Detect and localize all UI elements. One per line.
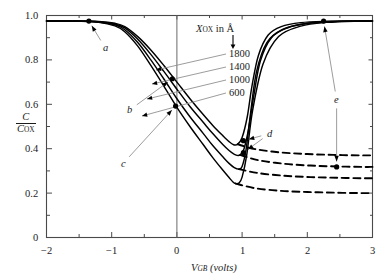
annotation-point-a <box>86 18 91 23</box>
x-axis-title: VGB (volts) <box>191 262 237 273</box>
annotation-leader-c <box>129 110 172 157</box>
annotation-point-e <box>334 164 339 169</box>
annotation-point-c <box>173 103 178 108</box>
legend-item-1000: 1000 <box>229 74 250 85</box>
annotation-point-d <box>241 138 246 143</box>
curve-600-deep-depletion <box>236 184 373 194</box>
annotation-arrow-e <box>323 27 327 33</box>
legend-item-1400: 1400 <box>229 61 250 72</box>
y-tick-label: 0.2 <box>25 188 38 199</box>
curve-1400-deep-depletion <box>240 155 372 167</box>
x-tick-label: 1 <box>240 245 245 256</box>
curve-1800 <box>47 21 373 145</box>
cv-characteristic-figure: −2−1012300.20.40.60.81.0XOX in Å18001400… <box>0 0 386 280</box>
annotation-leader-b <box>137 82 168 105</box>
curve-600 <box>47 21 373 184</box>
plot-frame <box>47 16 373 238</box>
legend-leader-600 <box>142 93 226 116</box>
annotation-label-c: c <box>121 158 126 169</box>
x-tick-label: 3 <box>370 245 375 256</box>
x-tick-label: 2 <box>305 245 310 256</box>
y-tick-label: 1.0 <box>25 10 38 21</box>
annotation-label-e: e <box>334 94 339 105</box>
annotation-point-b <box>170 76 175 81</box>
curve-1400 <box>47 21 373 156</box>
annotation-point-d <box>241 150 246 155</box>
annotation-arrow-a <box>92 26 97 32</box>
legend-leader-1800 <box>156 54 226 70</box>
y-tick-label: 0.4 <box>25 143 38 154</box>
annotation-leader-e <box>324 26 335 91</box>
annotation-label-a: a <box>103 42 108 53</box>
y-axis-title: CCOX <box>16 112 36 134</box>
x-tick-label: 0 <box>174 245 179 256</box>
curve-1800-deep-depletion <box>238 144 373 155</box>
legend-arrow-600 <box>142 113 148 117</box>
annotation-arrow-e <box>334 156 338 162</box>
annotation-point-e <box>321 18 326 23</box>
curve-1000 <box>47 21 373 169</box>
annotation-label-b: b <box>127 104 132 115</box>
y-tick-label: 0 <box>33 232 38 243</box>
x-tick-label: −1 <box>106 245 117 256</box>
curve-1000-deep-depletion <box>239 169 373 178</box>
legend-title: XOX in Å <box>196 23 234 34</box>
chart-canvas <box>0 0 386 280</box>
legend-item-1800: 1800 <box>229 48 250 59</box>
x-tick-label: −2 <box>41 245 52 256</box>
legend-arrow-1400 <box>152 81 158 85</box>
y-tick-label: 0.6 <box>25 99 38 110</box>
legend-item-600: 600 <box>229 87 245 98</box>
annotation-label-d: d <box>267 128 272 139</box>
y-tick-label: 0.8 <box>25 54 38 65</box>
